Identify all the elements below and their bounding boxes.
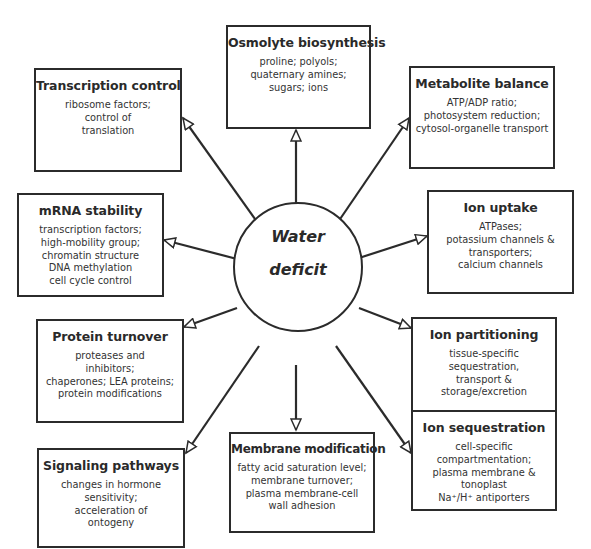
center-label-line2: deficit <box>234 253 362 286</box>
box-line: plasma membrane-cell <box>231 488 373 501</box>
box-body: fatty acid saturation level; membrane tu… <box>231 462 373 513</box>
box-line: translation <box>36 125 180 138</box>
box-line: tissue-specific <box>413 348 555 361</box>
box-line: ATP/ADP ratio; <box>411 97 553 110</box>
box-line: proteases and <box>38 350 182 363</box>
box-line: transcription factors; <box>19 224 162 237</box>
box-line: plasma membrane & <box>413 467 555 480</box>
box-title: Transcription control <box>36 78 180 93</box>
box-line: ribosome factors; <box>36 99 180 112</box>
box-body: cell-specific compartmentation; plasma m… <box>413 441 555 505</box>
box-line: potassium channels & <box>429 234 572 247</box>
box-line: calcium channels <box>429 259 572 272</box>
box-line: inhibitors; <box>38 363 182 376</box>
box-line: ATPases; <box>429 221 572 234</box>
box-title: Ion partitioning <box>413 327 555 342</box>
box-body: tissue-specific sequestration, transport… <box>413 348 555 399</box>
box-line: acceleration of <box>39 505 183 518</box>
box-body: changes in hormone sensitivity; accelera… <box>39 479 183 530</box>
box-line: cell cycle control <box>19 275 162 288</box>
box-line: changes in hormone <box>39 479 183 492</box>
box-line: sugars; ions <box>228 82 369 95</box>
box-line: DNA methylation <box>19 262 162 275</box>
center-label-line1: Water <box>234 220 362 253</box>
box-mrna-stability: mRNA stability transcription factors; hi… <box>17 193 164 297</box>
box-title: Signaling pathways <box>39 458 183 473</box>
box-line: proline; polyols; <box>228 56 369 69</box>
arrow-to-ion-uptake <box>359 236 427 258</box>
box-body: ribosome factors; control of translation <box>36 99 180 137</box>
box-body: transcription factors; high-mobility gro… <box>19 224 162 288</box>
box-line: membrane turnover; <box>231 475 373 488</box>
box-line: sensitivity; <box>39 492 183 505</box>
box-protein-turnover: Protein turnover proteases and inhibitor… <box>36 319 184 423</box>
box-body: proline; polyols; quaternary amines; sug… <box>228 56 369 94</box>
box-line: wall adhesion <box>231 500 373 513</box>
box-body: ATPases; potassium channels & transporte… <box>429 221 572 272</box>
box-ion-uptake: Ion uptake ATPases; potassium channels &… <box>427 190 574 294</box>
box-line: chaperones; LEA proteins; <box>38 376 182 389</box>
box-body: ATP/ADP ratio; photosystem reduction; cy… <box>411 97 553 135</box>
box-line: chromatin structure <box>19 250 162 263</box>
box-line: fatty acid saturation level; <box>231 462 373 475</box>
box-line: high-mobility group; <box>19 237 162 250</box>
box-line: compartmentation; <box>413 454 555 467</box>
box-line: transport & <box>413 374 555 387</box>
arrow-to-ion-partitioning <box>359 308 411 328</box>
box-ion-sequestration: Ion sequestration cell-specific compartm… <box>411 410 557 511</box>
arrow-to-protein <box>184 308 237 327</box>
box-line: storage/excretion <box>413 386 555 399</box>
box-line: control of <box>36 112 180 125</box>
box-transcription-control: Transcription control ribosome factors; … <box>34 68 182 172</box>
box-line: photosystem reduction; <box>411 110 553 123</box>
center-label: Water deficit <box>234 220 362 286</box>
box-title: mRNA stability <box>19 203 162 218</box>
box-metabolite-balance: Metabolite balance ATP/ADP ratio; photos… <box>409 66 555 169</box>
box-title: Metabolite balance <box>411 76 553 91</box>
box-line: quaternary amines; <box>228 69 369 82</box>
box-line: cytosol-organelle transport <box>411 123 553 136</box>
box-membrane-modification: Membrane modification fatty acid saturat… <box>229 432 375 533</box>
arrow-to-metabolite <box>336 118 409 225</box>
box-line: transporters; <box>429 247 572 260</box>
box-title: Ion sequestration <box>413 420 555 435</box>
box-signaling-pathways: Signaling pathways changes in hormone se… <box>37 448 185 548</box>
box-title: Protein turnover <box>38 329 182 344</box>
box-line: protein modifications <box>38 388 182 401</box>
box-ion-partitioning: Ion partitioning tissue-specific sequest… <box>411 317 557 421</box>
box-line: tonoplast <box>413 479 555 492</box>
box-line: ontogeny <box>39 517 183 530</box>
arrow-to-mrna <box>164 240 237 259</box>
box-title: Ion uptake <box>429 200 572 215</box>
box-title: Membrane modification <box>231 442 373 456</box>
box-osmolyte-biosynthesis: Osmolyte biosynthesis proline; polyols; … <box>226 25 371 129</box>
box-title: Osmolyte biosynthesis <box>228 35 369 50</box>
box-line: Na⁺/H⁺ antiporters <box>413 492 555 505</box>
box-line: cell-specific <box>413 441 555 454</box>
box-body: proteases and inhibitors; chaperones; LE… <box>38 350 182 401</box>
arrow-to-transcription <box>183 118 260 226</box>
box-line: sequestration, <box>413 361 555 374</box>
